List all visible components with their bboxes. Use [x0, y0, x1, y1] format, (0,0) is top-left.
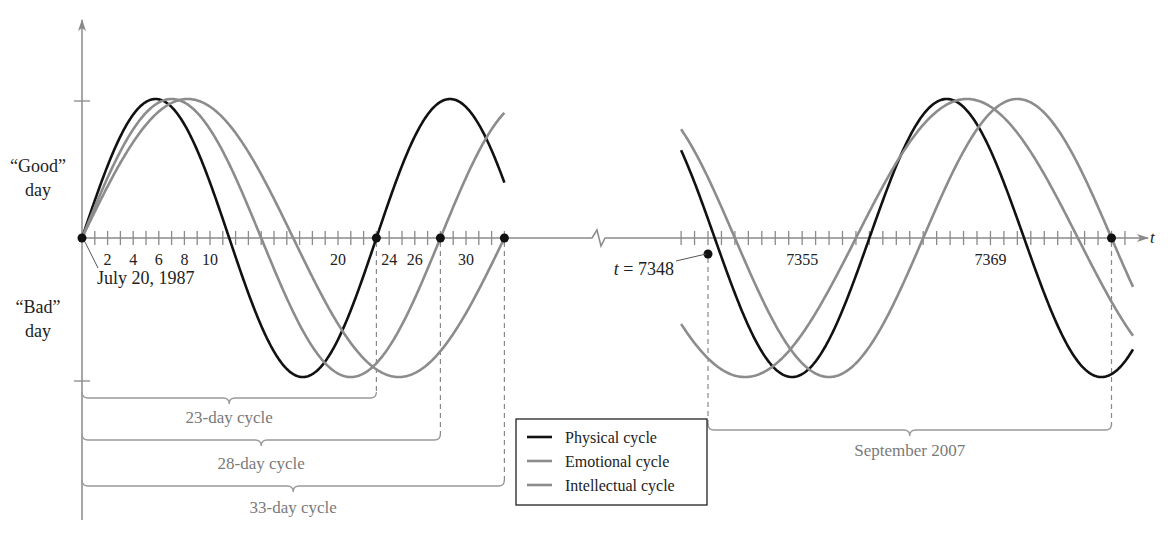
brace-label: September 2007	[854, 441, 965, 460]
x-tick-label: 6	[155, 251, 163, 268]
cycle-brace	[82, 392, 376, 404]
birthdate-annotation: July 20, 1987	[97, 268, 195, 288]
good-day-label-2: day	[25, 180, 51, 200]
marked-point	[372, 234, 381, 243]
t7348-leader	[676, 254, 706, 261]
x-tick-label: 20	[330, 251, 346, 268]
x-tick-label: 2	[104, 251, 112, 268]
brace-label: 28-day cycle	[218, 454, 305, 473]
legend-label-physical: Physical cycle	[565, 429, 657, 447]
cycle-brace	[708, 424, 1112, 436]
good-day-label: “Good”	[10, 156, 66, 176]
biorhythm-chart: t “Good” day “Bad” day 24681020242630735…	[0, 0, 1170, 536]
marked-point	[436, 234, 445, 243]
t7348-annotation: t = 7348	[614, 259, 674, 279]
x-tick-label: 4	[129, 251, 137, 268]
x-tick-label: 7369	[974, 251, 1006, 268]
cycle-brace	[82, 480, 504, 492]
x-axis-label: t	[1150, 228, 1156, 247]
marked-point	[500, 234, 509, 243]
x-tick-label: 7355	[786, 251, 818, 268]
brace-label: 23-day cycle	[186, 408, 273, 427]
x-tick-label: 26	[407, 251, 423, 268]
x-tick-label: 10	[202, 251, 218, 268]
legend: Physical cycle Emotional cycle Intellect…	[516, 419, 707, 505]
x-tick-label: 30	[458, 251, 474, 268]
bad-day-label-2: day	[25, 321, 51, 341]
birthdate-leader	[85, 242, 98, 268]
bad-day-label: “Bad”	[16, 297, 61, 317]
legend-label-emotional: Emotional cycle	[565, 453, 669, 471]
x-tick-label: 8	[180, 251, 188, 268]
x-tick-label: 24	[381, 251, 397, 268]
legend-label-intellectual: Intellectual cycle	[565, 477, 675, 495]
brace-label: 33-day cycle	[250, 498, 337, 517]
cycle-brace	[82, 434, 440, 446]
marked-point	[78, 234, 87, 243]
x-axis	[82, 230, 1148, 246]
marked-point	[1107, 234, 1116, 243]
